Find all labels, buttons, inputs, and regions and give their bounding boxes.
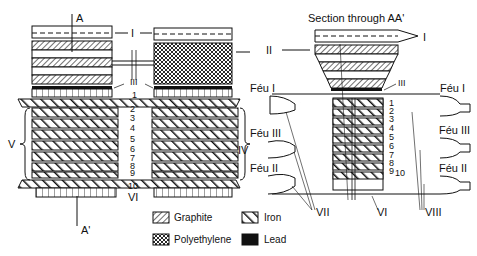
layer-number-column-right: 1 2 3 4 5 6 7 8 9 10 bbox=[389, 98, 405, 178]
svg-text:4: 4 bbox=[130, 123, 135, 133]
svg-text:Graphite: Graphite bbox=[174, 212, 213, 223]
svg-text:3: 3 bbox=[130, 113, 135, 123]
svg-text:10: 10 bbox=[128, 181, 138, 191]
feu-i-right: Féu I bbox=[440, 82, 465, 94]
legend-item-polyethylene: Polyethylene bbox=[153, 234, 232, 245]
svg-text:5: 5 bbox=[130, 134, 135, 144]
label-i-right: I bbox=[423, 31, 426, 43]
label-i-left: I bbox=[131, 27, 134, 39]
label-ii: II bbox=[266, 44, 272, 56]
legend-item-iron: Iron bbox=[242, 212, 281, 223]
feu-ii-left: Féu II bbox=[250, 162, 278, 174]
polyethylene-swatch-icon bbox=[153, 234, 169, 245]
svg-text:10: 10 bbox=[395, 168, 405, 178]
lead-swatch-icon bbox=[242, 234, 258, 245]
label-vii: VII bbox=[316, 206, 329, 218]
section-marker-a-prime: A' bbox=[81, 224, 90, 236]
legend-item-lead: Lead bbox=[242, 234, 286, 245]
graphite-swatch-icon bbox=[153, 212, 169, 223]
legend-item-graphite: Graphite bbox=[153, 212, 213, 223]
left-view: A A' I II III 1 2 3 4 5 6 7 8 9 10 V IV bbox=[8, 12, 310, 236]
feu-i-left: Féu I bbox=[250, 82, 275, 94]
label-iv: IV bbox=[238, 144, 249, 156]
svg-text:9: 9 bbox=[389, 166, 394, 176]
label-v: V bbox=[8, 138, 16, 150]
svg-text:Lead: Lead bbox=[264, 234, 286, 245]
label-iii-left: III bbox=[130, 77, 138, 87]
iron-swatch-icon bbox=[242, 212, 258, 223]
section-marker-a: A bbox=[76, 12, 84, 24]
label-vi-left: VI bbox=[128, 191, 138, 203]
shielding-diagram: A A' I II III 1 2 3 4 5 6 7 8 9 10 V IV bbox=[0, 0, 477, 256]
feu-iii-left: Féu III bbox=[250, 127, 281, 139]
svg-text:9: 9 bbox=[130, 168, 135, 178]
feu-ii-right: Féu II bbox=[439, 162, 467, 174]
svg-text:1: 1 bbox=[132, 90, 137, 100]
label-viii: VIII bbox=[425, 206, 442, 218]
right-view: Section through AA' I III bbox=[250, 12, 470, 218]
svg-text:Polyethylene: Polyethylene bbox=[174, 234, 232, 245]
label-iii-right: III bbox=[398, 78, 406, 88]
section-title: Section through AA' bbox=[308, 12, 404, 24]
svg-text:Iron: Iron bbox=[264, 212, 281, 223]
legend: Graphite Iron Polyethylene Lead bbox=[153, 212, 286, 245]
feu-iii-right: Féu III bbox=[439, 124, 470, 136]
label-vi-right: VI bbox=[377, 206, 387, 218]
